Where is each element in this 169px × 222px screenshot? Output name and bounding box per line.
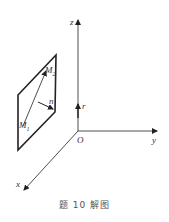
x-axis-label: x xyxy=(16,180,20,189)
diagram-svg xyxy=(0,0,169,222)
origin-label: O xyxy=(77,136,84,145)
figure-canvas: z y x O r n M2 M1 题 10 解图 xyxy=(0,0,169,222)
point-m1-label: M1 xyxy=(19,121,30,132)
x-axis xyxy=(24,131,78,190)
r-vector-label: r xyxy=(82,102,86,111)
n-vector-label: n xyxy=(49,97,54,106)
point-m2-label: M2 xyxy=(45,66,56,77)
figure-caption: 题 10 解图 xyxy=(0,198,169,211)
m1-m2-vector xyxy=(23,71,46,126)
z-axis-label: z xyxy=(70,18,74,27)
y-axis-label: y xyxy=(152,136,156,145)
